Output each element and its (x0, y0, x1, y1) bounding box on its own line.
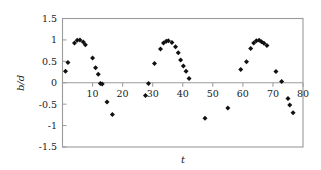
data-point (181, 64, 186, 69)
data-points (63, 37, 296, 120)
data-point (187, 76, 192, 81)
data-point (248, 46, 253, 51)
data-point (273, 69, 278, 74)
y-tick-label: -1 (48, 120, 57, 131)
data-point (202, 116, 207, 121)
data-point (110, 112, 115, 117)
data-point (184, 69, 189, 74)
data-point (104, 100, 109, 105)
y-axis-label: b/d (15, 75, 26, 91)
x-tick-label: 50 (207, 88, 219, 99)
data-point (90, 55, 95, 60)
y-tick-label: -1.5 (39, 141, 57, 152)
y-tick-label: 0.5 (42, 56, 57, 67)
scatter-plot: 1.510.50-0.5-1-1.51020304050607080 t b/d (0, 0, 321, 170)
data-point (178, 58, 183, 63)
data-point (63, 69, 68, 74)
data-point (152, 61, 157, 66)
y-tick-label: 1 (51, 34, 57, 45)
x-tick-label: 30 (147, 88, 159, 99)
y-tick-label: -0.5 (39, 99, 57, 110)
data-point (173, 44, 178, 49)
data-point (96, 72, 101, 77)
data-point (176, 50, 181, 55)
x-tick-label: 20 (117, 88, 129, 99)
data-point (93, 65, 98, 70)
data-point (287, 103, 292, 108)
figure-container: 1.510.50-0.5-1-1.51020304050607080 t b/d (0, 0, 321, 170)
y-tick-label: 0 (51, 77, 57, 88)
data-point (291, 110, 296, 115)
x-tick-label: 70 (267, 88, 279, 99)
x-tick-label: 10 (87, 88, 99, 99)
data-point (225, 106, 230, 111)
data-point (285, 96, 290, 101)
data-point (244, 59, 249, 64)
x-tick-label: 40 (177, 88, 189, 99)
data-point (158, 46, 163, 51)
y-tick-label: 1.5 (42, 13, 57, 24)
x-tick-label: 60 (237, 88, 249, 99)
data-point (146, 81, 151, 86)
data-point (238, 67, 243, 72)
x-tick-label: 80 (297, 88, 309, 99)
x-axis-label: t (181, 154, 186, 165)
